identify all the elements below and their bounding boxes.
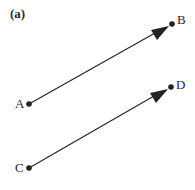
- point-d: [168, 84, 174, 90]
- vector-ab: [29, 26, 169, 104]
- label-d: D: [176, 77, 185, 92]
- point-c: [26, 165, 32, 171]
- arrowhead-icon: [150, 89, 168, 103]
- label-c: C: [15, 160, 24, 175]
- arrowhead-icon: [151, 26, 169, 40]
- vector-diagram: (a) A B C D: [0, 0, 195, 190]
- point-a: [26, 101, 32, 107]
- vector-cd: [29, 89, 168, 168]
- panel-label: (a): [10, 6, 25, 21]
- label-a: A: [15, 96, 25, 111]
- point-b: [169, 21, 175, 27]
- label-b: B: [177, 12, 186, 27]
